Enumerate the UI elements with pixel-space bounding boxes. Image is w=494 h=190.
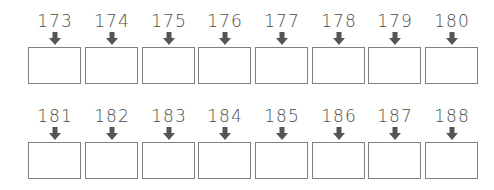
down-arrow-icon (388, 32, 402, 46)
number-label: 179 (368, 10, 422, 32)
answer-box[interactable] (368, 47, 421, 84)
answer-box[interactable] (28, 142, 81, 179)
answer-box[interactable] (85, 47, 138, 84)
answer-box[interactable] (85, 142, 138, 179)
down-arrow-icon (445, 127, 459, 141)
number-label: 176 (198, 10, 252, 32)
down-arrow-icon (332, 32, 346, 46)
down-arrow-icon (162, 32, 176, 46)
number-row-1: 173 174 175 176 177 178 179 180 (0, 10, 494, 90)
down-arrow-icon (275, 127, 289, 141)
answer-box[interactable] (312, 47, 365, 84)
cell-178: 178 (312, 10, 366, 90)
cell-187: 187 (368, 105, 422, 185)
cell-183: 183 (142, 105, 196, 185)
answer-box[interactable] (142, 142, 195, 179)
number-row-2: 181 182 183 184 185 186 187 188 (0, 105, 494, 185)
down-arrow-icon (48, 32, 62, 46)
number-label: 181 (28, 105, 82, 127)
answer-box[interactable] (312, 142, 365, 179)
number-label: 186 (312, 105, 366, 127)
down-arrow-icon (275, 32, 289, 46)
cell-186: 186 (312, 105, 366, 185)
number-label: 187 (368, 105, 422, 127)
cell-182: 182 (85, 105, 139, 185)
number-label: 175 (142, 10, 196, 32)
cell-173: 173 (28, 10, 82, 90)
answer-box[interactable] (198, 47, 251, 84)
down-arrow-icon (218, 127, 232, 141)
answer-box[interactable] (368, 142, 421, 179)
number-label: 174 (85, 10, 139, 32)
number-label: 184 (198, 105, 252, 127)
down-arrow-icon (218, 32, 232, 46)
answer-box[interactable] (198, 142, 251, 179)
answer-box[interactable] (425, 47, 478, 84)
number-label: 178 (312, 10, 366, 32)
cell-179: 179 (368, 10, 422, 90)
answer-box[interactable] (28, 47, 81, 84)
down-arrow-icon (332, 127, 346, 141)
answer-box[interactable] (255, 47, 308, 84)
cell-184: 184 (198, 105, 252, 185)
cell-175: 175 (142, 10, 196, 90)
answer-box[interactable] (425, 142, 478, 179)
number-label: 182 (85, 105, 139, 127)
answer-box[interactable] (255, 142, 308, 179)
number-label: 177 (255, 10, 309, 32)
number-label: 180 (425, 10, 479, 32)
down-arrow-icon (388, 127, 402, 141)
down-arrow-icon (105, 32, 119, 46)
down-arrow-icon (445, 32, 459, 46)
cell-185: 185 (255, 105, 309, 185)
cell-176: 176 (198, 10, 252, 90)
answer-box[interactable] (142, 47, 195, 84)
down-arrow-icon (48, 127, 62, 141)
cell-177: 177 (255, 10, 309, 90)
number-label: 188 (425, 105, 479, 127)
cell-188: 188 (425, 105, 479, 185)
cell-180: 180 (425, 10, 479, 90)
down-arrow-icon (105, 127, 119, 141)
number-label: 183 (142, 105, 196, 127)
number-label: 185 (255, 105, 309, 127)
down-arrow-icon (162, 127, 176, 141)
cell-181: 181 (28, 105, 82, 185)
cell-174: 174 (85, 10, 139, 90)
number-label: 173 (28, 10, 82, 32)
